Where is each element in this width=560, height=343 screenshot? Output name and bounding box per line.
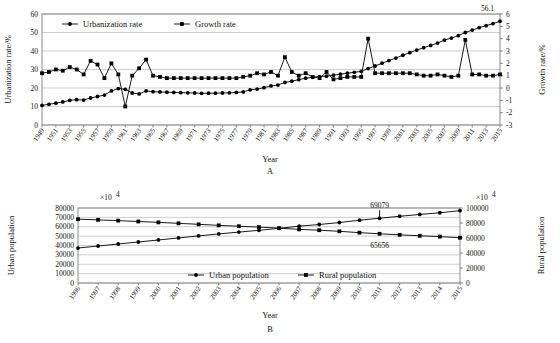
x-tick-label-b: 2012 (389, 285, 404, 301)
data-point-b (337, 229, 341, 233)
data-point-a (470, 73, 474, 77)
data-point-a (255, 71, 259, 75)
data-point-b (177, 236, 181, 240)
data-point-b (76, 217, 80, 221)
x-tick-label-a: 1987 (295, 127, 310, 143)
data-point-b (358, 231, 362, 235)
data-point-a (297, 78, 301, 82)
data-point-b (96, 244, 100, 248)
data-point-a (373, 71, 377, 75)
data-point-a (179, 76, 183, 80)
y2-tick-label-b: 80000 (466, 219, 485, 228)
data-point-a (498, 73, 502, 77)
data-point-b (297, 227, 301, 231)
data-point-a (151, 74, 155, 78)
y2-tick-label-a: 1 (506, 71, 510, 80)
data-point-a (75, 98, 79, 102)
data-point-a (276, 74, 280, 78)
sup-exp: 4 (116, 190, 120, 199)
data-point-a (186, 91, 190, 95)
figure-container: 0102030405060-3-2-1012345619491951195319… (0, 0, 560, 343)
data-point-b (398, 233, 402, 237)
x-tick-label-b: 2008 (309, 285, 324, 301)
x-tick-label-a: 1977 (226, 127, 241, 143)
data-point-a (221, 91, 225, 95)
y-tick-label-a: 30 (31, 65, 39, 74)
data-point-a (345, 71, 349, 75)
data-point-a (179, 91, 183, 95)
data-point-a (450, 75, 454, 79)
x-tick-label-b: 2006 (269, 285, 284, 301)
data-point-a (484, 24, 488, 28)
data-point-a (172, 91, 176, 95)
legend-label-1-b: Urban population (209, 270, 269, 280)
x-tick-label-b: 2003 (208, 285, 223, 301)
x-tick-label-a: 1955 (73, 127, 88, 143)
data-point-a (325, 70, 329, 74)
data-point-a (422, 74, 426, 78)
panel-label-b: B (267, 324, 273, 334)
y-tick-label-b: 50000 (55, 232, 74, 241)
x-tick-label-a: 1975 (212, 127, 227, 143)
data-point-a (436, 73, 440, 77)
data-point-a (345, 75, 349, 79)
data-point-b (277, 226, 281, 230)
x-tick-label-a: 2013 (476, 127, 491, 143)
data-point-b (438, 235, 442, 239)
legend-marker-2-b (304, 273, 308, 277)
data-point-a (103, 76, 107, 80)
data-point-a (137, 92, 141, 96)
x-tick-label-a: 2003 (406, 127, 421, 143)
data-point-a (241, 90, 245, 94)
data-point-b (458, 236, 462, 240)
data-point-a (304, 71, 308, 75)
data-point-a (262, 73, 266, 77)
series-line-2-b (78, 219, 460, 238)
data-point-b (438, 211, 442, 215)
x-tick-label-a: 1971 (184, 127, 199, 143)
data-point-a (332, 77, 336, 81)
y2-tick-label-a: 6 (506, 10, 510, 19)
y2-tick-label-b: 100000 (466, 204, 489, 213)
y2-tick-label-a: -1 (506, 96, 512, 105)
x-tick-label-a: 1965 (143, 127, 158, 143)
data-point-b (96, 218, 100, 222)
x-tick-label-b: 1997 (88, 285, 103, 301)
x-tick-label-a: 2009 (448, 127, 463, 143)
data-point-a (234, 91, 238, 95)
x-tick-label-a: 1951 (45, 127, 60, 143)
x-tick-label-b: 2014 (429, 285, 444, 301)
data-point-b (257, 225, 261, 229)
data-point-a (130, 74, 134, 78)
data-point-b (76, 246, 80, 250)
x-tick-label-b: 2002 (188, 285, 203, 301)
x-tick-label-a: 1953 (59, 127, 74, 143)
data-point-a (207, 91, 211, 95)
x-tick-label-a: 1983 (267, 127, 282, 143)
data-point-a (401, 53, 405, 57)
legend-a: Urbanization rateGrowth rate (62, 19, 236, 29)
data-point-a (241, 75, 245, 79)
series-line-1-b (78, 211, 460, 248)
data-point-a (193, 91, 197, 95)
data-point-a (248, 88, 252, 92)
x-tick-label-a: 1999 (379, 127, 394, 143)
data-point-a (387, 59, 391, 63)
y-tick-label-b: 80000 (55, 204, 74, 213)
data-point-a (422, 46, 426, 50)
data-point-b (136, 220, 140, 224)
x-tick-label-b: 1999 (128, 285, 143, 301)
data-point-a (269, 70, 273, 74)
data-point-b (136, 240, 140, 244)
data-point-a (116, 87, 120, 91)
y-tick-label-b: 20000 (55, 260, 74, 269)
x-tick-label-a: 1995 (351, 127, 366, 143)
data-point-b (217, 232, 221, 236)
data-point-b (157, 220, 161, 224)
x-tick-label-b: 2007 (289, 285, 304, 301)
legend-label-2-b: Rural population (319, 270, 377, 280)
data-point-b (217, 223, 221, 227)
data-point-a (262, 86, 266, 90)
data-point-a (103, 93, 107, 97)
data-point-a (283, 55, 287, 59)
